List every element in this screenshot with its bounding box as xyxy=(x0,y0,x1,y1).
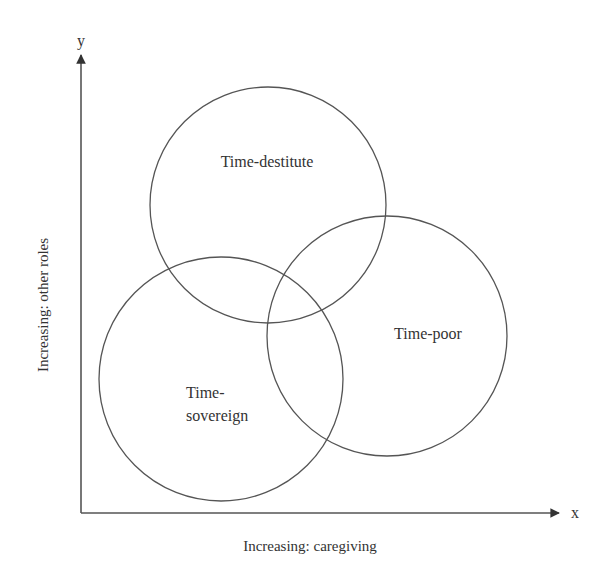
time-poor-circle xyxy=(267,216,507,456)
time-sovereign-label-line1: Time- xyxy=(186,384,225,401)
venn-diagram: y x Increasing: other roles Increasing: … xyxy=(0,0,607,579)
time-sovereign-label-line2: sovereign xyxy=(186,407,248,425)
time-destitute-label: Time-destitute xyxy=(221,153,314,170)
time-sovereign-circle xyxy=(99,257,343,501)
time-destitute-circle xyxy=(150,87,386,323)
x-axis-symbol: x xyxy=(571,504,579,521)
y-axis-symbol: y xyxy=(77,32,85,50)
y-axis-label: Increasing: other roles xyxy=(35,238,51,372)
x-axis-label: Increasing: caregiving xyxy=(243,538,377,554)
time-poor-label: Time-poor xyxy=(394,325,463,343)
